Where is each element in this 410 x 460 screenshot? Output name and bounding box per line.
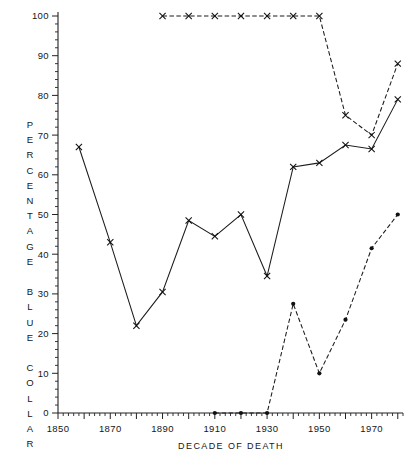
y-axis-title-char: E [27,134,33,145]
data-point [369,132,375,138]
data-point [265,411,269,415]
y-axis-title-char: E [27,332,33,343]
line-chart: 0102030405060708090100 18501870189019101… [0,0,410,460]
series-middle-series [76,96,401,328]
y-tick-label: 30 [38,288,49,299]
y-axis-title-char: B [27,286,33,297]
y-tick-label: 50 [38,209,49,220]
y-axis-title: PERCENTAGEBLUECOLLAR [26,119,34,449]
y-axis-title-char: L [27,408,32,419]
y-axis: 0102030405060708090100 [32,10,58,418]
data-point [395,96,401,102]
y-tick-label: 10 [38,368,49,379]
y-axis-title-char: T [27,210,33,221]
data-point [107,239,113,245]
y-tick-label: 90 [38,50,49,61]
y-axis-title-char: O [26,377,33,388]
y-axis-title-char: R [27,149,34,160]
y-axis-title-char: L [27,393,32,404]
y-tick-label: 40 [38,249,49,260]
data-point [395,61,401,67]
data-point [239,411,243,415]
x-axis-title: DECADE OF DEATH [178,441,284,451]
y-axis-title-char: A [27,225,34,236]
data-point [186,217,192,223]
y-axis-title-char: P [27,119,33,130]
data-point [238,211,244,217]
chart-container: 0102030405060708090100 18501870189019101… [0,0,410,460]
y-axis-title-char: E [27,256,33,267]
y-axis-title-char: C [27,165,34,176]
x-tick-label: 1930 [256,423,279,434]
data-point [291,302,295,306]
data-point [212,233,218,239]
x-tick-label: 1850 [47,423,70,434]
x-tick-label: 1970 [360,423,383,434]
x-tick-label: 1890 [151,423,174,434]
y-axis-title-char: N [27,195,34,206]
x-axis: 1850187018901910193019501970 [47,413,403,434]
y-axis-title-char: L [27,301,32,312]
data-point [159,289,165,295]
y-axis-title-char: G [26,241,33,252]
y-axis-title-char: R [27,438,34,449]
y-tick-label: 60 [38,169,49,180]
series-upper-series [159,13,400,138]
y-tick-label: 80 [38,90,49,101]
series-lower-series [213,212,400,415]
data-point [76,144,82,150]
data-point [133,323,139,329]
y-tick-label: 70 [38,130,49,141]
data-point [370,246,374,250]
x-tick-label: 1950 [308,423,331,434]
data-point [213,411,217,415]
y-tick-label: 100 [32,10,49,21]
x-tick-label: 1870 [99,423,122,434]
data-point [343,318,347,322]
y-axis-title-char: C [27,362,34,373]
x-tick-label: 1910 [203,423,226,434]
y-axis-title-char: E [27,180,33,191]
series-layer [76,13,401,415]
data-point [342,112,348,118]
data-point [396,212,400,216]
y-tick-label: 0 [43,407,49,418]
y-tick-label: 20 [38,328,49,339]
data-point [317,371,321,375]
y-axis-title-char: A [27,423,34,434]
y-axis-title-char: U [27,317,34,328]
